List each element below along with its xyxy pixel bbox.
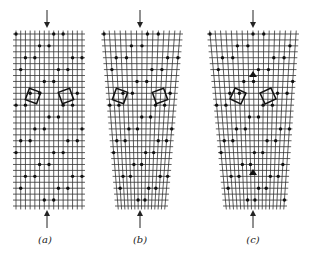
atom-dot — [217, 68, 220, 71]
atom-dot — [110, 68, 113, 71]
atom-dot — [226, 187, 229, 190]
atom-dot — [228, 92, 231, 95]
atom-dot — [47, 115, 50, 118]
panel-a-label: (a) — [38, 234, 52, 245]
atom-dot — [215, 103, 218, 106]
atom-dot — [261, 151, 264, 154]
atom-dot — [140, 44, 143, 47]
atom-dot — [19, 68, 22, 71]
atom-dot — [33, 56, 36, 59]
unit-cell-square — [230, 88, 246, 104]
atom-dot — [267, 68, 270, 71]
atom-dot — [14, 151, 17, 154]
atom-dot — [144, 151, 147, 154]
atom-dot — [112, 151, 115, 154]
atom-dot — [57, 68, 60, 71]
atom-dot — [57, 187, 60, 190]
atom-dot — [80, 56, 83, 59]
atom-dot — [47, 44, 50, 47]
atom-dot — [24, 175, 27, 178]
atom-dot — [115, 56, 118, 59]
panel-c-label: (c) — [246, 234, 259, 245]
unit-cell-square — [25, 88, 40, 103]
atom-dot — [121, 92, 124, 95]
atom-dot — [66, 68, 69, 71]
atom-dot — [52, 80, 55, 83]
unit-cell-square — [58, 88, 73, 103]
atom-dot — [163, 103, 166, 106]
atom-dot — [24, 103, 27, 106]
arrow-up-icon — [137, 210, 143, 216]
atom-dot — [47, 163, 50, 166]
atom-dot — [252, 80, 255, 83]
atom-dot — [166, 56, 169, 59]
atom-dot — [246, 44, 249, 47]
atom-dot — [235, 127, 238, 130]
atom-dot — [52, 32, 55, 35]
atom-dot — [102, 32, 105, 35]
atom-dot — [136, 127, 139, 130]
atom-dot — [132, 163, 135, 166]
atom-dot — [33, 127, 36, 130]
atom-dot — [274, 139, 277, 142]
atom-dot — [140, 163, 143, 166]
atom-dot — [147, 187, 150, 190]
atom-dot — [231, 56, 234, 59]
atom-dot — [140, 115, 143, 118]
arrow-down-icon — [137, 22, 143, 28]
atom-dot — [219, 151, 222, 154]
atom-dot — [262, 32, 265, 35]
atom-dot — [168, 92, 171, 95]
atom-dot — [66, 139, 69, 142]
atom-dot — [33, 175, 36, 178]
atom-dot — [165, 139, 168, 142]
atom-dot — [52, 198, 55, 201]
atom-dot — [130, 44, 133, 47]
unit-cell-square — [112, 88, 127, 103]
atom-dot — [265, 139, 268, 142]
atom-dot — [208, 32, 211, 35]
atom-dot — [246, 198, 249, 201]
atom-dot — [257, 187, 260, 190]
atom-dot — [24, 56, 27, 59]
atom-dot — [115, 139, 118, 142]
atom-dot — [38, 163, 41, 166]
atom-dot — [285, 92, 288, 95]
arrow-down-icon — [250, 22, 256, 28]
atom-dot — [279, 127, 282, 130]
atom-dot — [154, 187, 157, 190]
atom-dot — [257, 115, 260, 118]
atom-dot — [224, 103, 227, 106]
atom-dot — [236, 44, 239, 47]
atom-dot — [265, 187, 268, 190]
atom-dot — [241, 163, 244, 166]
atom-dot — [157, 139, 160, 142]
atom-dot — [28, 139, 31, 142]
atom-dot — [136, 198, 139, 201]
atom-dot — [71, 56, 74, 59]
atom-dot — [118, 187, 121, 190]
atom-dot — [52, 151, 55, 154]
atom-dot — [71, 175, 74, 178]
atom-dot — [14, 103, 17, 106]
atom-dot — [176, 56, 179, 59]
atom-dot — [123, 139, 126, 142]
atom-dot — [43, 80, 46, 83]
atom-dot — [158, 175, 161, 178]
atom-dot — [166, 175, 169, 178]
atom-dot — [160, 68, 163, 71]
atom-dot — [238, 92, 241, 95]
atom-dot — [61, 151, 64, 154]
atom-dot — [131, 92, 134, 95]
atom-dot — [76, 139, 79, 142]
atom-dot — [66, 187, 69, 190]
atom-dot — [253, 198, 256, 201]
atom-dot — [248, 115, 251, 118]
atom-dot — [157, 32, 160, 35]
atom-dot — [19, 187, 22, 190]
atom-dot — [288, 127, 291, 130]
atom-dot — [43, 198, 46, 201]
atom-dot — [229, 175, 232, 178]
atom-dot — [237, 175, 240, 178]
atom-dot — [288, 44, 291, 47]
